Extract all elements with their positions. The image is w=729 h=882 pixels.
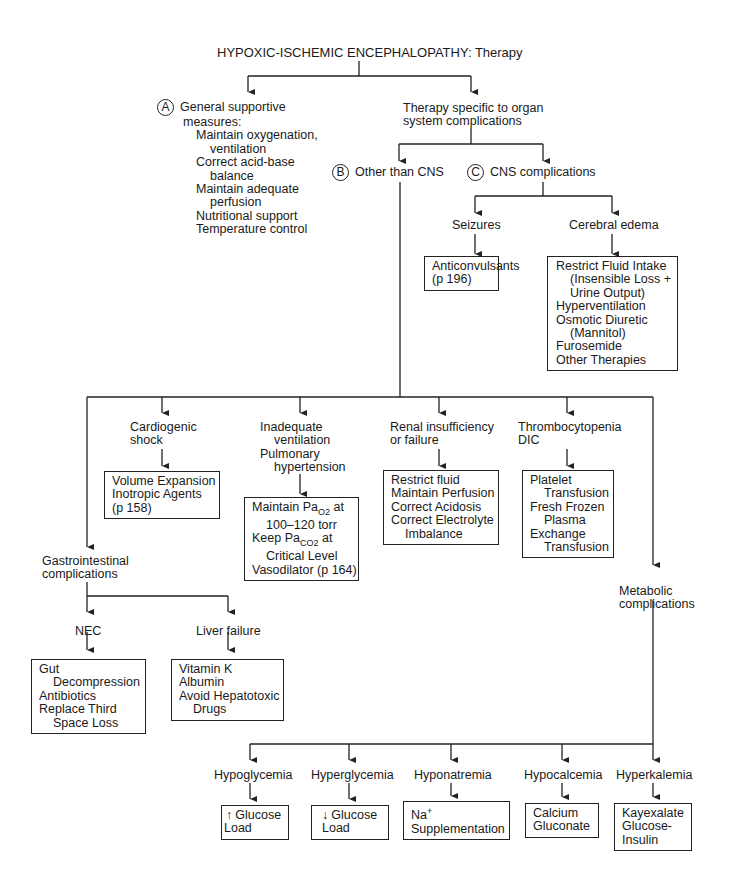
down-arrow-icon: ↓	[322, 808, 331, 822]
marker-c: C	[467, 164, 484, 181]
box-line: Kayexalate	[622, 807, 685, 820]
box-line: Inotropic Agents	[112, 488, 213, 501]
box-line: Plasma	[530, 514, 607, 527]
renal-label: Renal insufficiency or failure	[390, 421, 494, 448]
box-line: Calcium	[533, 807, 592, 820]
thrombocytopenia-box: Platelet Transfusion Fresh Frozen Plasma…	[522, 470, 614, 558]
box-line: Volume Expansion	[112, 475, 213, 488]
renal-box: Restrict fluid Maintain Perfusion Correc…	[383, 470, 499, 545]
anticonvulsants-box: Anticonvulsants (p 196)	[424, 256, 499, 291]
branch-a-heading-line1: General supportive	[180, 100, 286, 114]
hypoglycemia-box: ↑Glucose Load	[221, 805, 289, 840]
box-line: (Insensible Loss +	[556, 273, 671, 286]
hyperglycemia-box: ↓Glucose Load	[311, 805, 389, 840]
box-line: Drugs	[179, 703, 277, 716]
box-line: (p 196)	[432, 273, 492, 286]
plus-superscript: +	[427, 806, 432, 816]
box-line: Transfusion	[530, 487, 607, 500]
box-line: Gluconate	[533, 820, 592, 833]
branch-c-cns: CCNS complications	[467, 164, 596, 181]
box-line: Osmotic Diuretic	[556, 314, 671, 327]
label-line: Cardiogenic	[130, 421, 197, 434]
box-line: Gut	[39, 663, 139, 676]
box-line: Fresh Frozen	[530, 501, 607, 514]
box-line: Vitamin K	[179, 663, 277, 676]
box-line: Furosemide	[556, 340, 671, 353]
hyperkalemia-label: Hyperkalemia	[616, 769, 692, 782]
liver-failure-box: Vitamin K Albumin Avoid Hepatotoxic Drug…	[171, 659, 284, 721]
marker-a: A	[157, 99, 174, 116]
label-line: Metabolic	[619, 585, 695, 598]
nec-box: Gut Decompression Antibiotics Replace Th…	[31, 659, 146, 734]
branch-c-label: CNS complications	[490, 165, 596, 179]
box-line: Maintain Perfusion	[391, 487, 492, 500]
a-item-acid-base-cont: balance	[196, 170, 318, 183]
thrombocytopenia-label: Thrombocytopenia DIC	[518, 421, 622, 448]
box-line: Maintain PaO2 at	[252, 501, 352, 519]
hyperglycemia-label: Hyperglycemia	[311, 769, 394, 782]
label-line: hypertension	[260, 461, 346, 474]
box-line: (p 158)	[112, 502, 213, 515]
diagram-title: HYPOXIC-ISCHEMIC ENCEPHALOPATHY: Therapy	[217, 46, 523, 59]
box-line: Correct Acidosis	[391, 501, 492, 514]
box-line: Avoid Hepatotoxic	[179, 690, 277, 703]
seizures-label: Seizures	[452, 219, 501, 232]
label-line: Renal insufficiency	[390, 421, 494, 434]
box-line: Insulin	[622, 834, 685, 847]
box-line: Urine Output)	[556, 287, 671, 300]
label-line: complications	[42, 568, 129, 581]
box-line: Glucose	[331, 808, 377, 822]
hyponatremia-label: Hyponatremia	[414, 769, 492, 782]
a-item-acid-base: Correct acid-base	[196, 156, 318, 169]
hyponatremia-box: Na+ Supplementation	[403, 801, 510, 840]
hypocalcemia-label: Hypocalcemia	[524, 769, 603, 782]
box-line: Glucose-	[622, 820, 685, 833]
branch-a-general-supportive: AGeneral supportive measures: Maintain o…	[157, 99, 318, 237]
a-item-oxygenation: Maintain oxygenation,	[196, 129, 318, 142]
label-line: Pulmonary	[260, 448, 346, 461]
label-line: complications	[619, 598, 695, 611]
cardiogenic-shock-label: Cardiogenic shock	[130, 421, 197, 448]
box-line: Na	[411, 808, 427, 822]
organ-specific-line2: system complications	[403, 115, 543, 128]
box-line: Glucose	[235, 808, 281, 822]
box-line: Exchange	[530, 528, 607, 541]
a-item-temperature: Temperature control	[196, 223, 318, 236]
box-line: Restrict fluid	[391, 474, 492, 487]
box-line: Correct Electrolyte	[391, 514, 492, 527]
box-line: Space Loss	[39, 717, 139, 730]
label-line: or failure	[390, 434, 494, 447]
box-line: Imbalance	[391, 528, 492, 541]
a-item-perfusion-cont: perfusion	[196, 196, 318, 209]
box-line: Albumin	[179, 676, 277, 689]
cerebral-edema-label: Cerebral edema	[569, 219, 659, 232]
label-line: Gastrointestinal	[42, 555, 129, 568]
box-line: Replace Third	[39, 703, 139, 716]
a-item-oxygenation-cont: ventilation	[196, 143, 318, 156]
ventilation-label: Inadequate ventilation Pulmonary hyperte…	[260, 421, 346, 475]
gi-label: Gastrointestinal complications	[42, 555, 129, 582]
a-item-nutrition: Nutritional support	[196, 210, 318, 223]
box-line: Platelet	[530, 474, 607, 487]
organ-specific-line1: Therapy specific to organ	[403, 102, 543, 115]
box-line: Supplementation	[411, 823, 503, 836]
hypoglycemia-label: Hypoglycemia	[214, 769, 293, 782]
label-line: DIC	[518, 434, 622, 447]
liver-failure-label: Liver failure	[196, 625, 261, 638]
a-item-perfusion: Maintain adequate	[196, 183, 318, 196]
box-line: Vasodilator (p 164)	[252, 564, 352, 577]
label-line: Inadequate	[260, 421, 346, 434]
up-arrow-icon: ↑	[224, 808, 235, 822]
marker-b: B	[332, 164, 349, 181]
ventilation-box: Maintain PaO2 at 100–120 torr Keep PaCO2…	[244, 497, 359, 581]
cardiogenic-box: Volume Expansion Inotropic Agents (p 158…	[104, 471, 220, 519]
box-line: Decompression	[39, 676, 139, 689]
cerebral-edema-box: Restrict Fluid Intake (Insensible Loss +…	[547, 256, 678, 371]
label-line: shock	[130, 434, 197, 447]
hypocalcemia-box: Calcium Gluconate	[525, 803, 599, 838]
box-line: Load	[224, 822, 282, 835]
box-line: (Mannitol)	[556, 327, 671, 340]
branch-b-label: Other than CNS	[355, 165, 444, 179]
box-line: 100–120 torr	[252, 519, 352, 532]
box-line: Antibiotics	[39, 690, 139, 703]
